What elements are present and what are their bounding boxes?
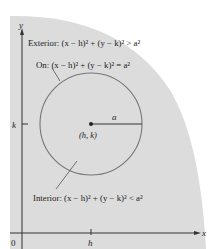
exterior-label: Exterior: (x − h)² + (y − k)² > a²: [28, 38, 140, 48]
on-label: On: (x − h)² + (y − k)² = a²: [36, 60, 130, 70]
origin-label: 0: [11, 238, 16, 248]
y-axis-label: y: [18, 20, 23, 30]
radius-label: a: [112, 112, 117, 122]
shaded-region: [10, 16, 206, 249]
interior-label: Interior: (x − h)² + (y − k)² < a²: [33, 193, 143, 203]
center-point: [89, 122, 93, 126]
h-tick-label: h: [88, 238, 93, 248]
circle-regions-diagram: y x 0 h k a (h, k) Exterior: (x − h)² + …: [0, 0, 219, 249]
x-axis-label: x: [201, 228, 206, 238]
center-label: (h, k): [79, 130, 97, 140]
